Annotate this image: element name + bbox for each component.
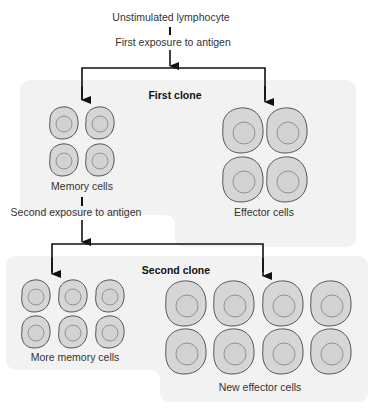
unstimulated-lymphocyte-label: Unstimulated lymphocyte: [112, 11, 229, 23]
effector-cell: [166, 281, 206, 326]
second-clone-title: Second clone: [142, 264, 210, 276]
effector-cell: [214, 281, 254, 326]
effector-cell: [166, 329, 206, 374]
effector-cell: [267, 108, 307, 153]
memory-cell: [86, 144, 115, 176]
effector-cell: [267, 157, 307, 202]
memory-cell: [50, 107, 79, 139]
memory-cell: [59, 280, 88, 312]
effector-cell: [263, 329, 303, 374]
effector-cell: [214, 329, 254, 374]
new-effector-cells-label: New effector cells: [219, 381, 302, 393]
effector-cells-label: Effector cells: [234, 206, 294, 218]
memory-cell: [86, 107, 115, 139]
memory-cell: [22, 316, 51, 348]
memory-cell: [22, 280, 51, 312]
effector-cell: [311, 329, 351, 374]
memory-cell: [59, 316, 88, 348]
first-exposure-label: First exposure to antigen: [115, 36, 231, 48]
effector-cell: [311, 281, 351, 326]
memory-cell: [96, 280, 125, 312]
second-exposure-label: Second exposure to antigen: [11, 206, 142, 218]
effector-cell: [223, 108, 263, 153]
effector-cell: [223, 157, 263, 202]
first-clone-title: First clone: [148, 89, 201, 101]
effector-cell: [263, 281, 303, 326]
lymphocyte-clone-diagram: Unstimulated lymphocyte First exposure t…: [0, 0, 376, 408]
memory-cells-label: Memory cells: [51, 180, 113, 192]
more-memory-cells-label: More memory cells: [31, 351, 120, 363]
memory-cell: [96, 316, 125, 348]
memory-cell: [50, 144, 79, 176]
